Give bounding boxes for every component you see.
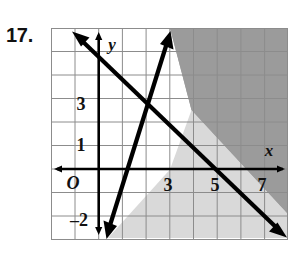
coordinate-graph: O 3 5 7 3 1 –2 x y <box>51 28 288 240</box>
y-axis-label: y <box>106 35 116 54</box>
x-tick-label-3: 3 <box>164 175 173 195</box>
problem-number-label: 17. <box>6 24 33 47</box>
y-tick-label-minus-2: –2 <box>69 210 88 230</box>
worksheet-graph-item: 17. <box>0 0 300 272</box>
x-axis-label: x <box>264 141 274 160</box>
y-tick-label-3: 3 <box>77 94 86 114</box>
x-tick-label-7: 7 <box>258 175 267 195</box>
graph-canvas: O 3 5 7 3 1 –2 x y <box>51 28 288 240</box>
y-tick-label-1: 1 <box>77 135 86 155</box>
origin-label: O <box>67 173 80 193</box>
x-tick-label-5: 5 <box>211 175 220 195</box>
